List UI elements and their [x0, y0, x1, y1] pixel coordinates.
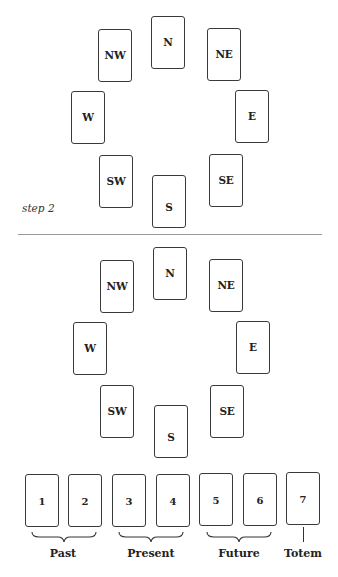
card-s-top: S [152, 175, 186, 228]
card-label: 6 [244, 495, 276, 506]
card-7: 7 [286, 472, 320, 525]
card-nw-bottom: NW [100, 260, 134, 313]
card-label: 2 [69, 496, 101, 507]
card-label: S [155, 431, 187, 443]
card-label: NE [208, 48, 240, 60]
card-label: SW [101, 405, 133, 417]
card-label: 7 [287, 494, 319, 505]
card-ne-top: NE [207, 28, 241, 81]
card-label: 4 [157, 496, 189, 507]
card-s-bottom: S [154, 405, 188, 458]
card-3: 3 [112, 474, 146, 527]
divider [18, 234, 322, 235]
card-label: E [236, 110, 268, 122]
card-label: 1 [26, 496, 58, 507]
card-label: W [74, 342, 106, 354]
card-6: 6 [243, 473, 277, 526]
card-label: SE [210, 174, 242, 186]
card-n-top: N [151, 16, 185, 69]
card-label: NE [210, 279, 242, 291]
card-label: E [237, 341, 269, 353]
card-ne-bottom: NE [209, 259, 243, 312]
card-4: 4 [156, 474, 190, 527]
card-nw-top: NW [98, 29, 132, 82]
card-label: 5 [200, 495, 232, 506]
card-se-top: SE [209, 154, 243, 207]
brace-present-icon [118, 531, 184, 543]
card-label: S [153, 201, 185, 213]
card-label: NW [101, 280, 133, 292]
card-label: N [154, 267, 186, 279]
card-label: 3 [113, 496, 145, 507]
card-label: W [72, 111, 104, 123]
card-5: 5 [199, 473, 233, 526]
card-label: NW [99, 49, 131, 61]
group-label-present: Present [127, 547, 174, 560]
totem-connector [303, 527, 304, 542]
card-w-bottom: W [73, 322, 107, 375]
card-label: SE [211, 405, 243, 417]
group-label-past: Past [50, 547, 76, 560]
step-label: step 2 [22, 202, 55, 214]
group-label-future: Future [218, 547, 260, 560]
card-label: N [152, 36, 184, 48]
brace-future-icon [206, 531, 272, 543]
card-sw-top: SW [99, 155, 133, 208]
card-e-bottom: E [236, 321, 270, 374]
brace-past-icon [31, 531, 97, 543]
card-se-bottom: SE [210, 385, 244, 438]
card-n-bottom: N [153, 247, 187, 300]
card-w-top: W [71, 91, 105, 144]
card-e-top: E [235, 90, 269, 143]
card-1: 1 [25, 474, 59, 527]
card-label: SW [100, 175, 132, 187]
card-sw-bottom: SW [100, 385, 134, 438]
card-2: 2 [68, 474, 102, 527]
group-label-totem: Totem [284, 547, 322, 560]
